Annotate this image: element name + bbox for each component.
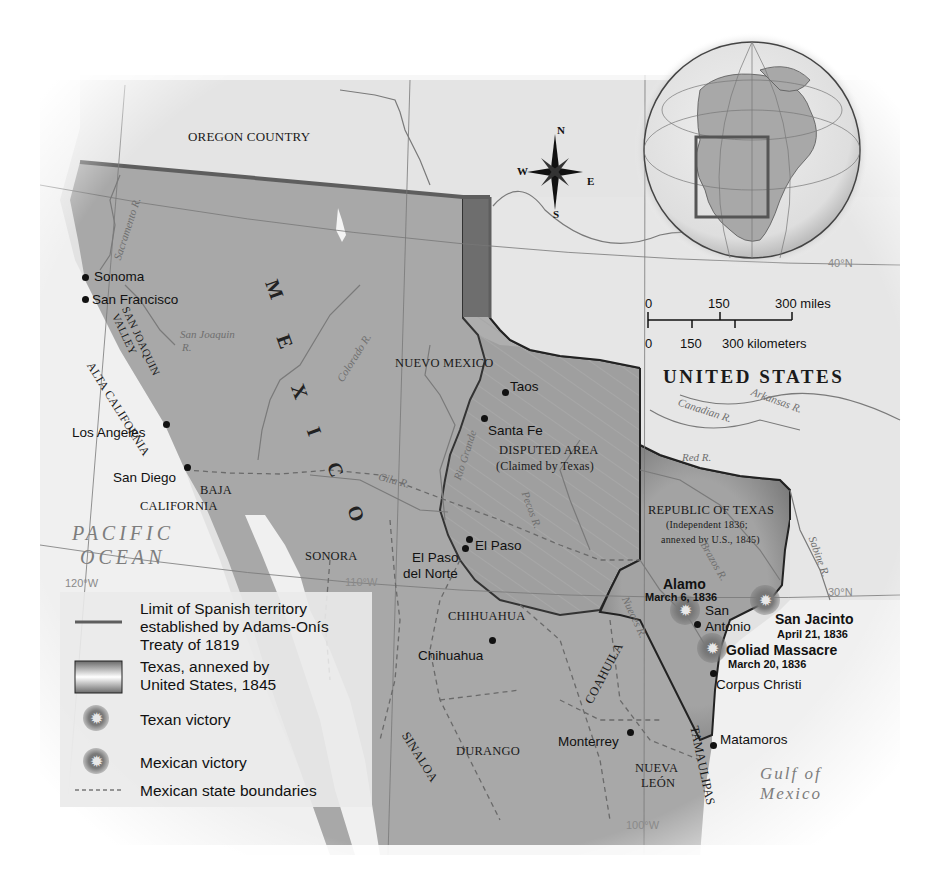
scale-miles-300: 300 miles bbox=[775, 296, 831, 311]
gulf-label-1: Gulf of bbox=[760, 764, 822, 783]
region-united-states: UNITED STATES bbox=[663, 367, 844, 386]
battle-alamo-date: March 6, 1836 bbox=[645, 592, 717, 603]
region-nueva-leon-1: NUEVA bbox=[635, 762, 678, 775]
city-dot-chihuahua bbox=[489, 637, 496, 644]
city-el-paso-del-norte-2: del Norte bbox=[403, 567, 458, 581]
locator-globe bbox=[634, 32, 870, 268]
legend-texas-annexed-2: United States, 1845 bbox=[140, 676, 276, 693]
region-disputed-area: DISPUTED AREA bbox=[499, 444, 598, 457]
lon-100-label: 100°W bbox=[626, 820, 659, 831]
city-el-paso-del-norte-1: El Paso bbox=[412, 551, 459, 565]
region-nueva-leon-2: LEÓN bbox=[641, 777, 675, 790]
historical-map: N W E S 0 150 300 miles 0 150 300 kilome… bbox=[0, 0, 931, 874]
city-corpus-christi: Corpus Christi bbox=[716, 678, 802, 692]
lon-110-label: 110°W bbox=[345, 577, 377, 588]
city-dot-san-antonio bbox=[694, 621, 701, 628]
city-dot-san-diego bbox=[184, 464, 191, 471]
city-san-francisco: San Francisco bbox=[92, 293, 178, 307]
city-dot-san-francisco bbox=[82, 296, 89, 303]
region-chihuahua: CHIHUAHUA bbox=[448, 610, 526, 623]
region-oregon-country: OREGON COUNTRY bbox=[188, 130, 310, 143]
legend-adams-onis-line-1: Limit of Spanish territory bbox=[140, 600, 307, 617]
region-republic-note-1: (Independent 1836; bbox=[666, 520, 748, 530]
city-taos: Taos bbox=[510, 380, 539, 394]
lat-30-label: 30°N bbox=[828, 587, 853, 598]
city-monterrey: Monterrey bbox=[558, 735, 619, 749]
city-sonoma: Sonoma bbox=[94, 270, 144, 284]
legend-mexican-victory: Mexican victory bbox=[140, 754, 247, 771]
region-sonora: SONORA bbox=[305, 550, 358, 563]
compass-n-label: N bbox=[557, 124, 565, 136]
legend-shaded-box-icon bbox=[75, 661, 122, 693]
legend-state-boundaries: Mexican state boundaries bbox=[140, 782, 317, 799]
pacific-label-2: OCEAN bbox=[80, 547, 166, 567]
legend-texan-victory: Texan victory bbox=[140, 711, 230, 728]
lon-120-label: 120°W bbox=[65, 578, 98, 589]
city-el-paso: El Paso bbox=[475, 539, 522, 553]
battle-goliad-date: March 20, 1836 bbox=[728, 659, 806, 670]
legend-mexican-victory-burst-icon: ✹ bbox=[83, 748, 109, 774]
river-san-joaquin-r: R. bbox=[182, 342, 191, 353]
city-dot-santa-fe bbox=[481, 415, 488, 422]
battle-san-jacinto-name: San Jacinto bbox=[775, 612, 854, 626]
city-dot-sonoma bbox=[82, 274, 89, 281]
region-disputed-note: (Claimed by Texas) bbox=[496, 460, 594, 472]
region-nuevo-mexico: NUEVO MEXICO bbox=[395, 357, 494, 370]
city-los-angeles: Los Angeles bbox=[72, 426, 146, 440]
city-santa-fe: Santa Fe bbox=[488, 424, 543, 438]
city-san-antonio-2: Antonio bbox=[705, 620, 751, 634]
city-dot-monterrey bbox=[627, 729, 634, 736]
compass-w-label: W bbox=[517, 165, 528, 177]
city-dot-matamoros bbox=[710, 742, 717, 749]
scale-km-0: 0 bbox=[645, 336, 652, 351]
compass-s-label: S bbox=[553, 208, 559, 220]
region-durango: DURANGO bbox=[456, 745, 520, 758]
scale-miles-150: 150 bbox=[708, 296, 730, 311]
scale-miles-0: 0 bbox=[645, 296, 652, 311]
city-dot-los-angeles bbox=[163, 421, 170, 428]
battle-goliad-burst-icon: ✹ bbox=[697, 633, 727, 663]
region-baja-california-2: CALIFORNIA bbox=[140, 500, 218, 513]
legend-texas-annexed-1: Texas, annexed by bbox=[140, 658, 269, 675]
city-san-antonio-1: San bbox=[705, 604, 729, 618]
city-dot-corpus-christi bbox=[710, 670, 717, 677]
city-dot-el-paso-del-norte bbox=[462, 545, 469, 552]
battle-goliad-name: Goliad Massacre bbox=[726, 643, 837, 657]
legend-adams-onis-line-2: established by Adams-Onís bbox=[140, 618, 329, 635]
gulf-label-2: Mexico bbox=[760, 784, 822, 803]
city-san-diego: San Diego bbox=[113, 471, 176, 485]
lat-40-label: 40°N bbox=[828, 258, 853, 269]
region-baja-california-1: BAJA bbox=[200, 484, 232, 497]
compass-e-label: E bbox=[587, 175, 594, 187]
region-republic-of-texas: REPUBLIC OF TEXAS bbox=[648, 504, 774, 517]
battle-san-jacinto-date: April 21, 1836 bbox=[777, 629, 848, 640]
city-matamoros: Matamoros bbox=[720, 733, 788, 747]
city-dot-taos bbox=[502, 389, 509, 396]
river-red: Red R. bbox=[682, 452, 711, 463]
city-dot-el-paso bbox=[466, 536, 473, 543]
city-chihuahua: Chihuahua bbox=[418, 649, 483, 663]
scale-km-300: 300 kilometers bbox=[722, 336, 807, 351]
pacific-label-1: PACIFIC bbox=[72, 523, 174, 543]
legend-adams-onis-line-3: Treaty of 1819 bbox=[140, 636, 239, 653]
legend-texan-victory-burst-icon: ✹ bbox=[83, 705, 109, 731]
river-san-joaquin: San Joaquin bbox=[180, 329, 235, 340]
scale-km-150: 150 bbox=[680, 336, 702, 351]
battle-alamo-name: Alamo bbox=[663, 577, 706, 591]
